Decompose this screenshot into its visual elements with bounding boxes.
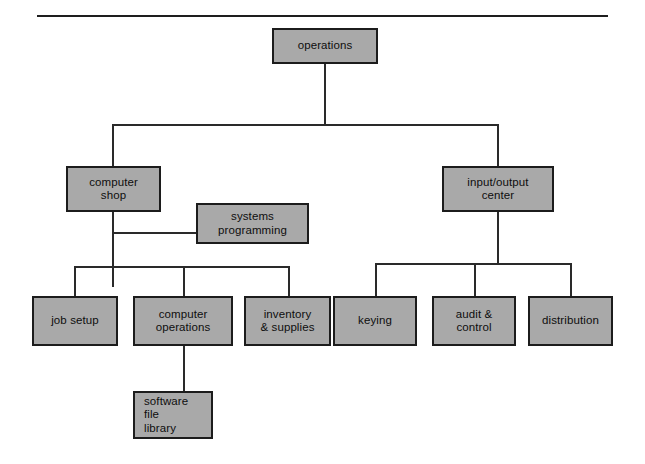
org-node-computer-shop[interactable]: computer shop (66, 166, 161, 212)
org-node-label: inventory & supplies (260, 308, 314, 335)
org-node-input-output-center[interactable]: input/output center (442, 166, 554, 212)
connector-inventory-drop (288, 266, 290, 296)
org-node-label: computer shop (89, 176, 138, 203)
connector-audit-drop (474, 263, 476, 296)
org-node-label: audit & control (456, 308, 493, 335)
org-node-distribution[interactable]: distribution (528, 296, 613, 346)
connector-computer-shop-stem (112, 212, 114, 287)
connector-iocenter-child-bus (375, 263, 571, 265)
connector-computer-shop-child-bus (74, 266, 288, 268)
connector-keying-drop (375, 263, 377, 296)
org-node-label: operations (298, 39, 353, 53)
connector-computer-shop-drop (112, 124, 114, 166)
org-node-systems-programming[interactable]: systems programming (196, 203, 309, 244)
top-divider-rule (37, 15, 608, 17)
connector-job-setup-drop (74, 266, 76, 296)
org-node-computer-operations[interactable]: computer operations (133, 296, 233, 346)
connector-systems-prog-link (112, 232, 197, 234)
org-chart-canvas: operationscomputer shopinput/output cent… (0, 0, 645, 464)
org-node-job-setup[interactable]: job setup (32, 296, 118, 346)
connector-software-library-stem (183, 346, 185, 391)
org-node-audit-control[interactable]: audit & control (432, 296, 516, 346)
org-node-operations[interactable]: operations (272, 28, 378, 64)
org-node-label: systems programming (218, 210, 287, 237)
connector-computer-ops-drop (183, 266, 185, 296)
org-node-inventory-supplies[interactable]: inventory & supplies (244, 296, 331, 346)
org-node-label: input/output center (467, 176, 528, 203)
connector-iocenter-drop (497, 124, 499, 166)
org-node-label: software file library (144, 395, 188, 436)
org-node-label: keying (358, 314, 392, 328)
connector-iocenter-stem (497, 212, 499, 264)
org-node-label: distribution (542, 314, 599, 328)
org-node-label: job setup (51, 314, 99, 328)
connector-operations-stem (324, 64, 326, 124)
org-node-label: computer operations (156, 308, 211, 335)
connector-distribution-drop (570, 263, 572, 296)
connector-level1-bus (112, 124, 498, 126)
org-node-keying[interactable]: keying (333, 296, 417, 346)
org-node-software-file-library[interactable]: software file library (133, 391, 213, 439)
